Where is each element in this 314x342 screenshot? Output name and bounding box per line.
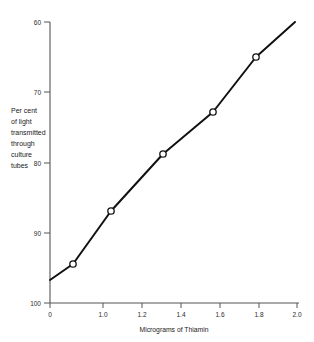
y-tick-label-60: 60 (34, 19, 42, 26)
data-line (50, 22, 295, 280)
x-axis-title: Micrograms of Thiamin (140, 326, 209, 334)
data-point-4 (210, 109, 216, 115)
x-tick-label-1-4: 1.4 (176, 311, 185, 318)
data-point-1 (70, 261, 76, 267)
data-point-3 (160, 151, 166, 157)
x-tick-label-2-0: 2.0 (292, 311, 301, 318)
y-axis-title-line-4: through (11, 140, 35, 148)
y-axis-title-line-1: Per cent (11, 107, 37, 114)
y-tick-label-90: 90 (34, 230, 42, 237)
x-tick-label-1-0: 1.0 (98, 311, 107, 318)
chart-figure: 60 70 80 90 100 0 1.0 1.2 1.4 1.6 1.8 2.… (0, 0, 314, 342)
data-point-5 (253, 54, 259, 60)
y-axis-title-line-2: of light (11, 118, 32, 126)
x-tick-label-1-8: 1.8 (254, 311, 263, 318)
y-axis-title-line-6: tubes (11, 162, 29, 169)
y-axis-title-line-3: transmitted (11, 129, 46, 136)
x-tick-label-0: 0 (48, 311, 52, 318)
y-tick-label-100: 100 (30, 300, 41, 307)
y-tick-label-70: 70 (34, 89, 42, 96)
line-chart: 60 70 80 90 100 0 1.0 1.2 1.4 1.6 1.8 2.… (0, 0, 314, 342)
x-axis-ticks (50, 303, 297, 308)
x-tick-label-1-2: 1.2 (137, 311, 146, 318)
data-point-markers (70, 54, 259, 267)
x-tick-label-1-6: 1.6 (215, 311, 224, 318)
y-axis-title-line-5: culture (11, 151, 32, 158)
y-axis-ticks (44, 22, 50, 303)
data-point-2 (108, 208, 114, 214)
y-tick-label-80: 80 (34, 160, 42, 167)
